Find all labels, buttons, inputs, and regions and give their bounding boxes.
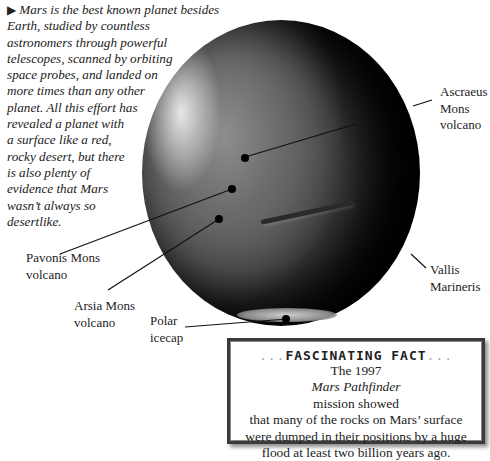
label-line: Vallis bbox=[430, 262, 481, 279]
label-pavonis-mons: Pavonis Mons volcano bbox=[26, 250, 100, 283]
fact-title-text: FASCINATING FACT bbox=[285, 348, 426, 363]
label-line: Ascraeus bbox=[440, 84, 488, 101]
fact-line-2: that many of the rocks on Mars’ surface bbox=[230, 412, 482, 428]
label-polar-icecap: Polar icecap bbox=[150, 313, 183, 346]
ascraeus-mons-marker bbox=[241, 154, 249, 162]
fact-title: ...FASCINATING FACT... bbox=[230, 348, 482, 363]
fascinating-fact-box: ...FASCINATING FACT... The 1997 Mars Pat… bbox=[227, 338, 485, 444]
fact-line-4: flood at least two billion years ago. bbox=[230, 445, 482, 461]
arsia-mons-marker bbox=[215, 215, 223, 223]
label-line: volcano bbox=[74, 315, 135, 332]
fact-text: The 1997 bbox=[230, 363, 482, 379]
label-line: icecap bbox=[150, 330, 183, 347]
label-arsia-mons: Arsia Mons volcano bbox=[74, 298, 135, 331]
title-dots-right: ... bbox=[427, 348, 453, 363]
mission-name: Mars Pathfinder bbox=[312, 379, 401, 394]
fact-body: The 1997 Mars Pathfinder mission showed … bbox=[230, 363, 482, 461]
polar-icecap-marker bbox=[282, 315, 290, 323]
label-ascraeus-mons: Ascraeus Mons volcano bbox=[440, 84, 488, 134]
label-line: Marineris bbox=[430, 279, 481, 296]
label-line: Polar bbox=[150, 313, 183, 330]
label-vallis-marineris: Vallis Marineris bbox=[430, 262, 481, 295]
fact-line-1: The 1997 Mars Pathfinder mission showed bbox=[230, 363, 482, 412]
label-line: Pavonis Mons bbox=[26, 250, 100, 267]
label-line: Arsia Mons bbox=[74, 298, 135, 315]
fact-line-3: were dumped in their positions by a huge bbox=[230, 429, 482, 445]
pavonis-mons-marker bbox=[228, 185, 236, 193]
label-line: volcano bbox=[440, 117, 488, 134]
fact-text: mission showed bbox=[230, 396, 482, 412]
title-dots-left: ... bbox=[259, 348, 285, 363]
label-line: volcano bbox=[26, 267, 100, 284]
label-line: Mons bbox=[440, 101, 488, 118]
